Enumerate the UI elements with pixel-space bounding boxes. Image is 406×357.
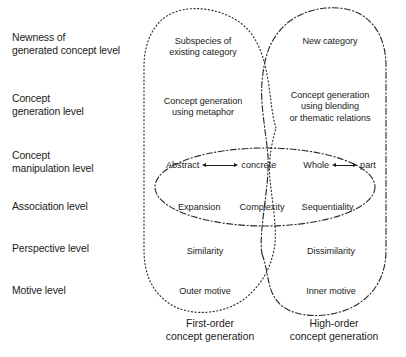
- caption-line: concept generation: [150, 331, 270, 344]
- row-label-manipulation: Concept manipulation level: [12, 150, 140, 175]
- right-cell-perspective: Dissimilarity: [276, 246, 386, 257]
- cell-line: New category: [272, 36, 388, 47]
- cell-line: Outer motive: [150, 286, 260, 297]
- caption-line: First-order: [150, 318, 270, 331]
- cell-line: Subspecies of: [146, 36, 260, 47]
- right-cell-newness: New category: [272, 36, 388, 47]
- cell-line: or thematic relations: [266, 113, 394, 124]
- association-term-sequentiality: Sequentiality: [302, 202, 354, 212]
- row-label-perspective: Perspective level: [12, 243, 140, 256]
- row-label-line: Newness of: [12, 32, 140, 45]
- left-cell-motive: Outer motive: [150, 286, 260, 297]
- cell-line: Inner motive: [276, 286, 386, 297]
- cell-line: using metaphor: [142, 107, 264, 118]
- concept-generation-diagram: Newness of generated concept level Conce…: [0, 0, 406, 357]
- cell-line: Concept generation: [266, 90, 394, 101]
- row-label-line: Motive level: [12, 285, 140, 298]
- caption-line: High-order: [272, 318, 396, 331]
- row-label-line: Association level: [12, 201, 140, 214]
- caption-line: concept generation: [272, 331, 396, 344]
- association-term-expansion: Expansion: [178, 202, 220, 212]
- manipulation-pairs: Abstract concrete Whole part: [166, 160, 376, 171]
- manipulation-pair-whole-part: Whole part: [303, 160, 375, 171]
- double-headed-arrow-icon: [202, 162, 238, 169]
- pair-right-term: concrete: [241, 160, 276, 171]
- left-cell-perspective: Similarity: [150, 246, 260, 257]
- row-label-newness: Newness of generated concept level: [12, 32, 140, 57]
- pair-left-term: Whole: [303, 160, 329, 171]
- row-label-association: Association level: [12, 201, 140, 214]
- cell-line: using blending: [266, 101, 394, 112]
- pair-right-term: part: [360, 160, 376, 171]
- row-label-generation: Concept generation level: [12, 93, 140, 118]
- cell-line: Concept generation: [142, 96, 264, 107]
- row-label-line: generation level: [12, 106, 140, 119]
- right-cell-generation: Concept generation using blending or the…: [266, 90, 394, 124]
- row-label-line: generated concept level: [12, 45, 140, 58]
- left-cell-newness: Subspecies of existing category: [146, 36, 260, 59]
- caption-high-order: High-order concept generation: [272, 318, 396, 344]
- left-cell-generation: Concept generation using metaphor: [142, 96, 264, 119]
- row-label-line: manipulation level: [12, 163, 140, 176]
- association-term-complexity: Complexity: [240, 202, 285, 212]
- cell-line: Dissimilarity: [276, 246, 386, 257]
- row-label-motive: Motive level: [12, 285, 140, 298]
- row-label-line: Concept: [12, 150, 140, 163]
- manipulation-pair-abstract-concrete: Abstract concrete: [166, 160, 276, 171]
- row-label-line: Concept: [12, 93, 140, 106]
- right-cell-motive: Inner motive: [276, 286, 386, 297]
- cell-line: existing category: [146, 47, 260, 58]
- association-terms: Expansion Complexity Sequentiality: [178, 202, 354, 213]
- cell-line: Similarity: [150, 246, 260, 257]
- double-headed-arrow-icon: [332, 162, 357, 169]
- row-label-line: Perspective level: [12, 243, 140, 256]
- pair-left-term: Abstract: [166, 160, 199, 171]
- caption-first-order: First-order concept generation: [150, 318, 270, 344]
